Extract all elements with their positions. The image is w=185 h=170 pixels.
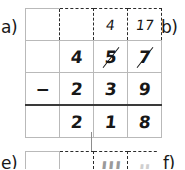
subtrahend-cell-ones: 9 — [128, 73, 162, 106]
worksheet-page: a) b) e) f) 4 17 — [0, 0, 185, 169]
answer-cell-hundreds: 2 — [60, 105, 94, 138]
subtrahend-value-tens: 3 — [104, 79, 118, 99]
subtrahend-cell-tens: 3 — [94, 73, 128, 106]
minuend-value-hundreds: 4 — [70, 47, 84, 67]
subtrahend-value-ones: 9 — [138, 79, 152, 99]
crossed-out-digit-tens: 5 — [105, 47, 117, 67]
borrow-value-tens: 4 — [105, 17, 116, 33]
answer-value-hundreds: 2 — [70, 112, 84, 132]
problem-label-a: a) — [1, 17, 17, 37]
partial-cell-operator — [26, 152, 60, 170]
problem-label-e: e) — [1, 153, 17, 169]
minuend-cell-hundreds: 4 — [60, 41, 94, 73]
answer-value-ones: 8 — [138, 112, 152, 132]
crossed-out-digit-ones: 7 — [139, 47, 151, 67]
partial-value-tens: Ш — [100, 158, 122, 169]
borrow-cell-tens: 4 — [94, 9, 128, 41]
connector-line — [91, 132, 92, 151]
table-row-answer: 2 1 8 — [26, 105, 162, 138]
minuend-cell-ones: 7 — [128, 41, 162, 73]
problem-label-b: b) — [161, 17, 177, 37]
partial-cell-ones: ᴜ — [128, 152, 158, 170]
answer-cell-tens: 1 — [94, 105, 128, 138]
borrow-value-ones: 17 — [134, 17, 154, 33]
table-row-minuend: 4 5 7 — [26, 41, 162, 73]
partial-cell-hundreds — [60, 152, 94, 170]
table-row: Ш ᴜ — [26, 152, 158, 170]
column-subtraction-table-partial: Ш ᴜ — [25, 151, 157, 169]
answer-cell-operator — [26, 105, 60, 138]
table-row-borrow: 4 17 — [26, 9, 162, 41]
column-subtraction-table: 4 17 4 5 — [25, 8, 162, 138]
minuend-cell-tens: 5 — [94, 41, 128, 73]
minuend-cell-operator — [26, 41, 60, 73]
table-row-subtrahend: − 2 3 9 — [26, 73, 162, 106]
borrow-cell-hundreds — [60, 9, 94, 41]
subtrahend-cell-hundreds: 2 — [60, 73, 94, 106]
borrow-cell-ones: 17 — [128, 9, 162, 41]
partial-value-ones: ᴜ — [138, 158, 150, 169]
subtrahend-cell-operator: − — [26, 73, 60, 106]
minus-operator-icon: − — [35, 79, 49, 99]
problem-label-f: f) — [163, 153, 175, 169]
answer-value-tens: 1 — [104, 112, 118, 132]
borrow-cell-operator — [26, 9, 60, 41]
subtraction-grid-e-partial: Ш ᴜ — [25, 151, 157, 169]
partial-cell-tens: Ш — [94, 152, 128, 170]
subtraction-grid-a: 4 17 4 5 — [25, 8, 157, 132]
subtrahend-value-hundreds: 2 — [70, 79, 84, 99]
answer-cell-ones: 8 — [128, 105, 162, 138]
